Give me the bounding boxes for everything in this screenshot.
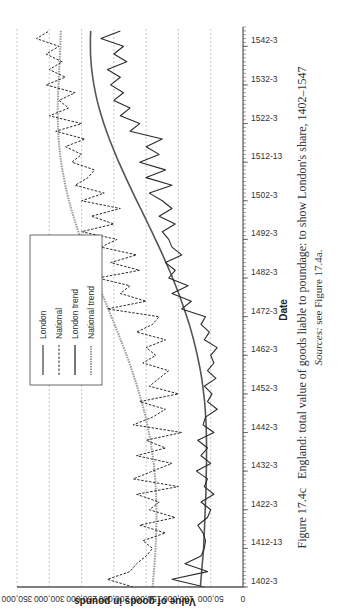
- date-tick-label: 1512-13: [251, 151, 282, 161]
- sources-text: see Figure 17.4a.: [312, 250, 324, 325]
- legend-label: London: [38, 310, 48, 339]
- value-tick-label: 0: [240, 594, 245, 604]
- figure-caption: Figure 17.4c England: total value of goo…: [295, 0, 310, 615]
- legend-label: London trend: [70, 289, 80, 339]
- figure-sources: Sources: see Figure 17.4a.: [312, 0, 324, 615]
- date-tick-label: 1492-3: [251, 228, 278, 238]
- series-line-london: [101, 31, 217, 587]
- date-tick-label: 1532-3: [251, 74, 278, 84]
- value-tick-label: 300,000: [34, 594, 65, 604]
- date-tick-label: 1452-3: [251, 383, 278, 393]
- date-tick-label: 1542-3: [251, 35, 278, 45]
- date-tick-label: 1482-3: [251, 267, 278, 277]
- rotated-figure-page: 050,000100,000150,000200,000250,000300,0…: [0, 0, 348, 615]
- legend-label: National trend: [86, 286, 96, 339]
- date-tick-label: 1412-13: [251, 537, 282, 547]
- date-tick-label: 1442-3: [251, 422, 278, 432]
- sources-label: Sources:: [312, 327, 324, 365]
- figure-title: England: total value of goods liable to …: [295, 66, 309, 478]
- value-tick-label: 350,000: [1, 594, 32, 604]
- date-tick-label: 1472-3: [251, 306, 278, 316]
- figure-label: Figure 17.4c: [295, 488, 309, 549]
- value-tick-label: 50,000: [197, 594, 223, 604]
- chart-legend: LondonNationalLondon trendNational trend: [30, 235, 102, 385]
- date-axis-title: Date: [278, 299, 289, 321]
- value-axis-title: Value of goods in pounds: [74, 596, 196, 607]
- date-tick-label: 1462-3: [251, 344, 278, 354]
- date-tick-label: 1502-3: [251, 190, 278, 200]
- date-tick-label: 1432-3: [251, 460, 278, 470]
- date-tick-label: 1522-3: [251, 113, 278, 123]
- date-tick-label: 1422-3: [251, 499, 278, 509]
- legend-label: National: [54, 308, 64, 339]
- date-tick-label: 1402-3: [251, 576, 278, 586]
